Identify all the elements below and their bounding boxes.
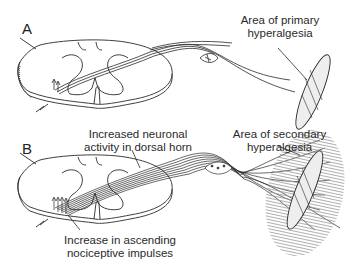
label-dorsal-line1: Increased neuronal xyxy=(68,128,208,141)
label-primary-hyperalgesia: Area of primary hyperalgesia xyxy=(225,14,335,39)
panel-letter-a: A xyxy=(22,20,32,37)
label-primary-line1: Area of primary xyxy=(225,14,335,27)
label-secondary-line2: hyperalgesia xyxy=(222,141,337,154)
panel-letter-b: B xyxy=(22,140,32,157)
primary-area-a xyxy=(278,48,336,132)
label-dorsal-horn-activity: Increased neuronal activity in dorsal ho… xyxy=(68,128,208,153)
label-primary-line2: hyperalgesia xyxy=(225,27,335,40)
label-ascending-impulses: Increase in ascending nociceptive impuls… xyxy=(55,234,185,259)
spinal-cord-b xyxy=(18,153,173,227)
hyperalgesia-diagram: A B Area of primary hyperalgesia Increas… xyxy=(0,0,355,271)
label-ascending-line2: nociceptive impulses xyxy=(55,247,185,260)
label-dorsal-line2: activity in dorsal horn xyxy=(68,141,208,154)
label-secondary-line1: Area of secondary xyxy=(222,128,337,141)
label-ascending-line1: Increase in ascending xyxy=(55,234,185,247)
label-secondary-hyperalgesia: Area of secondary hyperalgesia xyxy=(222,128,337,153)
